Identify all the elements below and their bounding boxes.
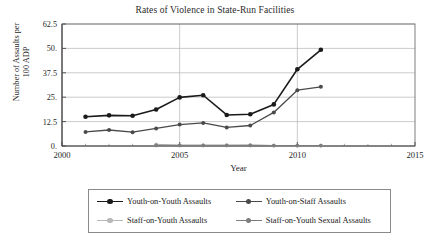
- svg-text:12.5: 12.5: [43, 118, 57, 127]
- svg-text:50.: 50.: [47, 44, 57, 53]
- legend-item-2[interactable]: Youth-on-Staff Assaults: [236, 197, 386, 207]
- svg-text:2000: 2000: [53, 150, 70, 160]
- legend-marker-icon: [236, 216, 262, 226]
- svg-text:2005: 2005: [171, 150, 188, 160]
- x-axis-label: Year: [62, 163, 415, 173]
- legend-marker-icon: [236, 197, 262, 207]
- legend-label: Youth-on-Staff Assaults: [266, 197, 346, 206]
- axis-frame: [62, 24, 415, 146]
- series-2: [84, 85, 323, 134]
- plot-area: 0.12.525.37.550.62.5 2000200520102015: [0, 0, 430, 170]
- legend-item-3[interactable]: Staff-on-Youth Assaults: [97, 216, 236, 226]
- gridlines: [62, 24, 415, 146]
- svg-text:62.5: 62.5: [43, 20, 57, 29]
- legend-marker-icon: [97, 216, 123, 226]
- legend-label: Youth-on-Youth Assaults: [127, 197, 211, 206]
- legend-label: Staff-on-Youth Sexual Assaults: [266, 216, 371, 225]
- legend-marker-icon: [97, 197, 123, 207]
- legend-label: Staff-on-Youth Assaults: [127, 216, 207, 225]
- series-4: [154, 144, 323, 148]
- chart-container: Rates of Violence in State-Run Facilitie…: [0, 0, 430, 245]
- legend-item-1[interactable]: Youth-on-Youth Assaults: [97, 197, 236, 207]
- svg-text:37.5: 37.5: [43, 69, 57, 78]
- chart-legend: Youth-on-Youth AssaultsYouth-on-Staff As…: [88, 189, 391, 233]
- legend-item-4[interactable]: Staff-on-Youth Sexual Assaults: [236, 216, 386, 226]
- series-1: [83, 47, 323, 119]
- svg-text:25.: 25.: [47, 93, 57, 102]
- svg-text:2010: 2010: [289, 150, 306, 160]
- svg-text:2015: 2015: [406, 150, 423, 160]
